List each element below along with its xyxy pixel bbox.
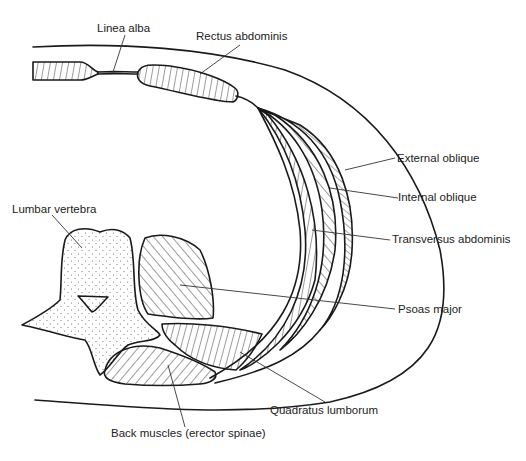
leader-rectus: [200, 45, 240, 74]
rectus-tendon: [236, 96, 258, 108]
leader-external-oblique: [345, 158, 395, 170]
label-internal-oblique: Internal oblique: [398, 192, 477, 204]
abdominal-wall-diagram: Linea alba Rectus abdominis External obl…: [0, 0, 526, 461]
label-external-oblique: External oblique: [397, 153, 479, 165]
label-psoas-major: Psoas major: [398, 304, 462, 316]
rectus-abdominis: [138, 65, 238, 102]
label-back-muscles: Back muscles (erector spinae): [111, 428, 266, 440]
rectus-left-stub: [33, 62, 98, 80]
label-quadratus-lumborum: Quadratus lumborum: [270, 405, 378, 417]
label-lumbar-vertebra: Lumbar vertebra: [12, 204, 96, 216]
diagram-canvas: [0, 0, 526, 461]
label-transversus-abdominis: Transversus abdominis: [392, 234, 510, 246]
label-rectus-abdominis: Rectus abdominis: [196, 31, 287, 43]
psoas-major: [139, 235, 214, 318]
leader-linea-alba: [113, 35, 125, 72]
linea-alba: [98, 72, 138, 74]
label-linea-alba: Linea alba: [97, 23, 150, 35]
